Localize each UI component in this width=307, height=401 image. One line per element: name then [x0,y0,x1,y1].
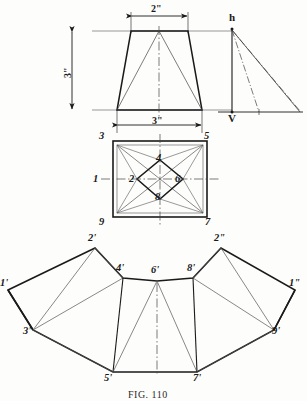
dev-line-4-3 [33,278,123,330]
true-length-aux-line-outer [232,30,300,111]
dev-label-2pp: 2" [214,233,225,244]
figure-page: 2" 3" 3" h V 3 5 9 7 4 2 6 8 1 1' 2' 3' … [0,0,307,401]
plan-label-4: 4 [156,153,161,164]
dev-line-2pp-9 [221,248,274,330]
dev-line-6-5 [113,281,157,372]
plan-label-7: 7 [205,217,210,228]
true-length-aux-line-inner [232,30,259,112]
plan-label-6: 6 [175,174,180,185]
dev-line-4-5 [113,278,123,372]
dev-label-5p: 5' [104,373,112,384]
dev-label-4p: 4' [116,263,124,274]
plan-label-9: 9 [99,217,104,228]
dev-line-3-5 [33,330,113,372]
plan-label-3: 3 [99,131,104,142]
plan-label-2: 2 [129,174,134,185]
dev-line-8-7 [193,278,197,372]
label-point-h: h [229,12,235,23]
dev-label-1pp: 1" [289,278,300,289]
dev-line-2pp-8 [193,248,221,278]
technical-drawing-svg [0,0,307,401]
plan-link-7-6 [183,179,203,213]
dev-label-9p: 9' [272,326,280,337]
dim-label-height: 3" [63,67,73,78]
dev-line-8-9 [193,278,274,330]
plan-label-1: 1 [93,174,98,185]
dim-label-top-width: 2" [151,4,162,14]
dev-label-3p: 3' [23,326,31,337]
plan-link-7-8 [160,199,203,213]
plan-label-5: 5 [204,131,209,142]
plan-link-3-4 [117,145,160,160]
dev-line-6-7 [157,281,197,372]
dev-label-2p: 2' [88,233,96,244]
front-view-group [117,26,202,118]
dev-label-7p: 7' [193,373,201,384]
plan-link-5-4 [160,145,203,160]
dev-label-1p: 1' [0,278,8,289]
dim-label-bottom-width: 3" [152,116,163,126]
dev-line-9-7 [197,330,274,372]
dev-label-8p: 8' [187,263,195,274]
dev-label-6p: 6' [151,265,159,276]
dev-line-2-3 [33,248,95,330]
dev-edge-1-3 [8,290,33,330]
dev-edge-1pp-9 [274,290,295,330]
plan-view-group [101,134,219,226]
plan-link-9-8 [117,199,160,213]
figure-caption: FIG. 110 [128,390,168,400]
plan-link-5-6 [183,145,203,179]
true-length-diagram-group [218,28,303,116]
front-view-outline [117,31,202,110]
point-h [231,28,234,31]
plan-label-8: 8 [155,192,160,203]
label-point-v: V [228,113,236,124]
